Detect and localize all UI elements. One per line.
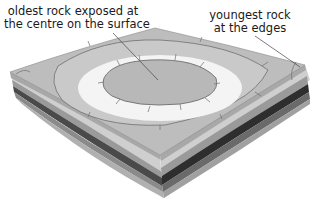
label-youngest-rock: youngest rock at the edges [207,9,293,34]
label-oldest-rock: oldest rock exposed at the centre on the… [4,5,142,30]
label-oldest-line-1: oldest rock exposed at [4,5,142,18]
label-oldest-line-2: the centre on the surface [4,18,142,31]
label-youngest-line-2: at the edges [207,22,293,35]
label-youngest-line-1: youngest rock [207,9,293,22]
inner-core-oldest-rock [103,60,217,105]
dome-block-diagram: oldest rock exposed at the centre on the… [0,0,323,202]
